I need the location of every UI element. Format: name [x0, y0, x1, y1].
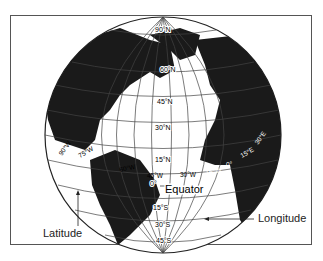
- lat-label-90n: 90°N: [155, 26, 171, 33]
- latitude-label: Latitude: [43, 227, 82, 239]
- lat-label-0: 0°: [150, 180, 157, 187]
- lon-label-0: 0°: [226, 161, 233, 168]
- lon-label-30w: 30°W: [180, 171, 197, 178]
- lat-label-30s: 30°S: [155, 221, 171, 228]
- lat-label-60n: 60°N: [160, 66, 176, 73]
- longitude-label: Longitude: [258, 212, 306, 224]
- equator-callout: Equator: [160, 183, 204, 195]
- lon-label-45w: 45°W: [147, 172, 164, 179]
- lat-label-45s: 45°S: [156, 237, 172, 244]
- globe: [45, 17, 285, 253]
- equator-label: Equator: [165, 183, 204, 195]
- lat-label-30n: 30°N: [155, 124, 171, 131]
- lat-label-45n: 45°N: [157, 98, 173, 105]
- lat-label-15n: 15°N: [155, 156, 171, 163]
- lat-label-15s: 15°S: [153, 204, 169, 211]
- globe-diagram: 90°N 60°N 45°N 30°N 15°N 0° 15°S 30°S 45…: [0, 0, 323, 261]
